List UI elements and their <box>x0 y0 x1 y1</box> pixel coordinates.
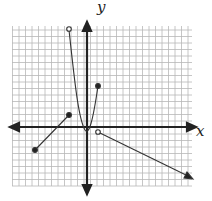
y-axis-label: y <box>97 0 105 16</box>
closed-point <box>33 148 38 153</box>
parabola-curve <box>69 30 98 131</box>
x-axis-label: x <box>196 122 204 140</box>
open-point <box>96 130 101 135</box>
y-axis-up-arrow-icon <box>83 22 91 31</box>
closed-point <box>67 113 72 118</box>
closed-point <box>96 84 101 89</box>
grid-lines <box>12 26 192 186</box>
left-segment <box>35 115 69 150</box>
graph <box>0 0 212 201</box>
x-axis-left-arrow-icon <box>10 123 19 131</box>
open-point <box>67 27 72 32</box>
x-axis-right-arrow-icon <box>187 123 196 131</box>
y-axis-down-arrow-icon <box>83 185 91 194</box>
